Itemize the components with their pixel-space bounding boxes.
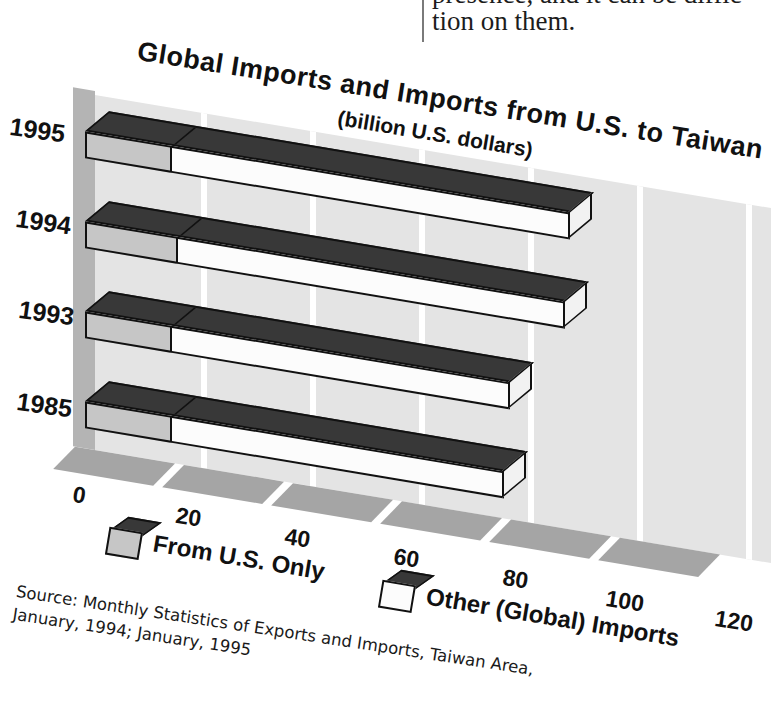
column-rule [422,0,424,42]
wall-gridline-100 [637,186,643,542]
body-text-fragment: tion on them. [432,6,575,37]
bar-top-segment-divider-1993 [174,308,196,325]
x-tick-label-120: 120 [713,605,755,638]
legend-swatch-other-front-face [378,580,416,613]
year-label-1995: 1995 [8,112,67,148]
year-label-1994: 1994 [14,204,73,240]
bar-top-segment-divider-1995 [174,128,196,145]
scanned-book-page: presence, and it can be diffic tion on t… [0,0,784,724]
bar-top-segment-divider-1994 [180,219,202,236]
legend-swatch-us-front-face [105,527,143,560]
wall-gridline-120 [746,204,752,560]
year-label-1985: 1985 [15,387,74,423]
year-label-1993: 1993 [17,295,76,331]
legend-swatch-other [378,565,416,610]
x-tick-label-0: 0 [71,481,88,510]
bar-top-segment-divider-1985 [174,398,196,415]
legend-swatch-us [105,512,143,557]
